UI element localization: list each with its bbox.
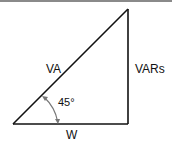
angle-label: 45°: [58, 97, 75, 108]
vertical-label: VARs: [135, 63, 165, 75]
horizontal-label: W: [66, 129, 77, 141]
hypotenuse-label: VA: [46, 63, 61, 75]
angle-arc: [45, 98, 58, 122]
